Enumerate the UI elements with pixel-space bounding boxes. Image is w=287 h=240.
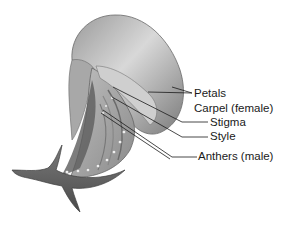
label-carpel: Carpel (female) <box>194 103 273 115</box>
label-stigma: Stigma <box>210 117 246 129</box>
label-petals: Petals <box>194 88 226 100</box>
label-anthers: Anthers (male) <box>198 151 273 163</box>
label-style: Style <box>210 131 236 143</box>
